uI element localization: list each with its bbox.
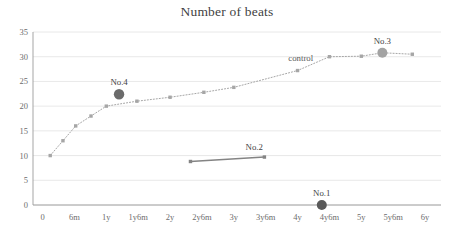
series-marker xyxy=(296,69,299,72)
point-label-no-2: No.2 xyxy=(246,142,263,152)
series-marker xyxy=(263,155,266,158)
series-marker xyxy=(360,55,363,58)
series-marker xyxy=(89,114,92,117)
highlight-point-no-4 xyxy=(114,89,124,99)
y-axis-tick-label: 25 xyxy=(20,76,29,86)
series-marker xyxy=(61,139,64,142)
y-axis-tick-label: 5 xyxy=(24,175,28,185)
y-axis-tick-label: 20 xyxy=(20,101,29,111)
x-axis-tick-label: 6y xyxy=(421,212,430,222)
x-axis-tick-label: 3y xyxy=(230,212,239,222)
y-axis-tick-label: 15 xyxy=(20,126,29,136)
y-axis-tick-label: 35 xyxy=(20,27,29,37)
point-label-no-1: No.1 xyxy=(313,188,330,198)
series-marker xyxy=(74,124,77,127)
x-axis-tick-label: 5y xyxy=(357,212,366,222)
axes-group xyxy=(33,32,441,205)
series-line-no-2 xyxy=(190,157,264,161)
x-axis-tick-label: 4y6m xyxy=(320,212,340,222)
x-axis-tick-labels: 06m1y1y6m2y2y6m3y3y6m4y4y6m5y5y6m6y xyxy=(40,212,430,222)
y-axis-tick-label: 10 xyxy=(20,151,29,161)
data-series-layer xyxy=(49,51,414,163)
highlight-points-layer: No.1No.3No.4 xyxy=(110,36,391,210)
gridlines-group xyxy=(33,32,441,205)
series-marker xyxy=(168,96,171,99)
x-axis-tick-label: 6m xyxy=(69,212,80,222)
chart-plot-area: 05101520253035 06m1y1y6m2y2y6m3y3y6m4y4y… xyxy=(0,0,454,244)
x-axis-tick-label: 1y xyxy=(102,212,111,222)
series-marker xyxy=(135,100,138,103)
series-marker xyxy=(49,154,52,157)
x-axis-tick-label: 1y6m xyxy=(129,212,149,222)
x-axis-tick-label: 5y6m xyxy=(384,212,404,222)
x-axis-tick-label: 4y xyxy=(293,212,302,222)
series-line-control xyxy=(50,53,412,156)
x-axis-tick-label: 2y xyxy=(166,212,175,222)
y-axis-tick-labels: 05101520253035 xyxy=(20,27,29,210)
series-marker xyxy=(189,160,192,163)
series-marker xyxy=(411,53,414,56)
x-axis-tick-label: 0 xyxy=(40,212,44,222)
chart-container: Number of beats 05101520253035 06m1y1y6m… xyxy=(0,0,454,244)
series-marker xyxy=(232,86,235,89)
point-label-no-4: No.4 xyxy=(110,77,128,87)
x-axis-tick-label: 2y6m xyxy=(192,212,212,222)
series-marker xyxy=(105,104,108,107)
series-marker xyxy=(328,55,331,58)
series-annotation-control: control xyxy=(288,53,313,63)
series-marker xyxy=(202,91,205,94)
highlight-point-no-1 xyxy=(317,200,327,210)
point-label-no-3: No.3 xyxy=(374,36,392,46)
x-axis-tick-label: 3y6m xyxy=(256,212,276,222)
y-axis-tick-label: 30 xyxy=(20,52,29,62)
highlight-point-no-3 xyxy=(377,48,387,58)
y-axis-tick-label: 0 xyxy=(24,200,28,210)
